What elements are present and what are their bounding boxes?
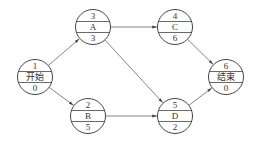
edge-4-to-6: [187, 39, 213, 64]
node-duration: 2: [173, 122, 178, 132]
network-diagram: 1开始03A32B54C65D26结束0: [0, 0, 260, 150]
node-duration: 0: [33, 83, 38, 93]
node-label: A: [90, 22, 97, 32]
node-3: 3A3: [76, 10, 111, 45]
node-number: 2: [86, 100, 91, 110]
node-number: 6: [224, 61, 229, 71]
node-label: C: [172, 22, 178, 32]
edge-1-to-2: [49, 87, 73, 105]
node-6: 6结束0: [209, 60, 244, 95]
node-label: B: [85, 111, 91, 121]
node-number: 4: [173, 11, 178, 21]
node-1: 1开始0: [18, 60, 53, 95]
node-number: 3: [91, 11, 96, 21]
node-number: 5: [173, 100, 178, 110]
edge-5-to-6: [189, 88, 212, 105]
node-5: 5D2: [158, 99, 193, 134]
node-label: 开始: [26, 71, 44, 82]
node-duration: 5: [86, 122, 91, 132]
node-duration: 0: [224, 83, 229, 93]
node-duration: 3: [91, 33, 96, 43]
node-number: 1: [33, 61, 38, 71]
edge-3-to-5: [105, 40, 163, 103]
nodes-group: 1开始03A32B54C65D26结束0: [18, 10, 244, 134]
node-duration: 6: [173, 33, 178, 43]
node-label: 结束: [217, 71, 235, 82]
node-label: D: [172, 111, 179, 121]
node-2: 2B5: [71, 99, 106, 134]
edges-group: [48, 27, 213, 116]
edge-1-to-3: [48, 39, 79, 66]
node-4: 4C6: [158, 10, 193, 45]
